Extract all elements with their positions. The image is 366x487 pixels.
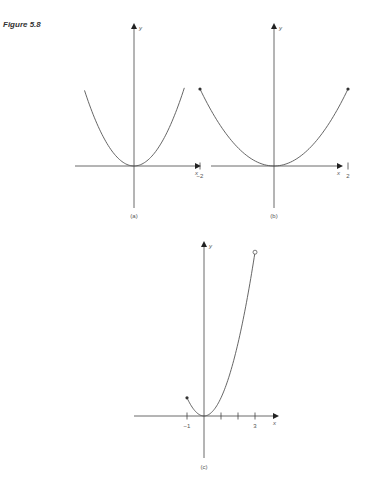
panel-a: xy(a) bbox=[75, 25, 199, 219]
panel-c: xy−13(c) bbox=[134, 243, 277, 470]
x-tick-label: −1 bbox=[184, 423, 192, 429]
x-tick-label: 3 bbox=[253, 423, 257, 429]
closed-endpoint bbox=[185, 396, 188, 399]
y-axis-label: y bbox=[208, 243, 213, 249]
y-axis-label: y bbox=[278, 25, 283, 31]
function-curve bbox=[187, 252, 255, 416]
closed-endpoint bbox=[198, 87, 201, 90]
closed-endpoint bbox=[346, 87, 349, 90]
x-axis-label: x bbox=[336, 170, 341, 176]
x-tick-label: −2 bbox=[197, 173, 205, 179]
panel-caption: (a) bbox=[130, 213, 137, 219]
function-curve bbox=[85, 88, 185, 166]
panel-caption: (b) bbox=[270, 213, 277, 219]
panel-b: xy−22(b) bbox=[197, 25, 351, 219]
x-tick-label: 2 bbox=[346, 173, 350, 179]
open-endpoint bbox=[253, 250, 257, 254]
panel-caption: (c) bbox=[201, 464, 208, 470]
figure-canvas: xy(a) xy−22(b) xy−13(c) bbox=[0, 0, 366, 487]
x-axis-label: x bbox=[272, 420, 277, 426]
y-axis-label: y bbox=[138, 25, 143, 31]
